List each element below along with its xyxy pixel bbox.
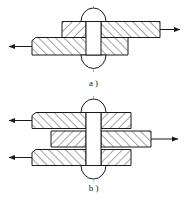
panel-b: b ) bbox=[9, 96, 178, 193]
riveted-joint-diagram: a ) b ) bbox=[0, 0, 187, 204]
lower-cover-plate-b-left bbox=[32, 150, 86, 166]
rivet-head-upper-a bbox=[81, 8, 106, 21]
lower-cover-plate-b-right bbox=[101, 150, 131, 166]
upper-cover-plate-b-right bbox=[101, 113, 131, 129]
middle-plate-b-left bbox=[51, 131, 86, 147]
rivet-head-lower-b bbox=[81, 166, 106, 179]
rivet-shank-a bbox=[86, 22, 101, 56]
panel-a: a ) bbox=[9, 6, 180, 88]
upper-plate-a-left bbox=[62, 22, 86, 38]
rivet-head-upper-b bbox=[81, 99, 106, 112]
lower-plate-a bbox=[32, 38, 128, 56]
upper-cover-plate-b-left bbox=[32, 113, 86, 129]
middle-plate-b-right bbox=[101, 131, 151, 147]
figure-root: a ) b ) bbox=[0, 0, 187, 204]
rivet-head-lower-a bbox=[81, 55, 106, 68]
panel-b-caption: b ) bbox=[89, 183, 99, 193]
upper-plate-a-right bbox=[101, 22, 160, 38]
rivet-shank-b bbox=[86, 113, 101, 166]
panel-a-caption: a ) bbox=[89, 78, 98, 88]
